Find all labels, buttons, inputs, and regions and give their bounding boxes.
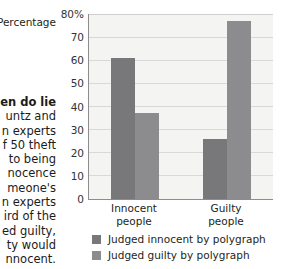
- legend-swatch-icon: [92, 251, 101, 260]
- y-axis-tick-label: 80%: [40, 9, 84, 20]
- legend-item[interactable]: Judged innocent by polygraph: [92, 232, 282, 246]
- article-line: ed guilty,: [0, 224, 56, 238]
- bar[interactable]: [227, 21, 251, 199]
- y-axis-tick-label: 40: [40, 101, 84, 112]
- x-axis-tick-label: Guiltypeople: [181, 202, 271, 227]
- gridline: [89, 14, 273, 15]
- y-axis-tick-label: 70: [40, 32, 84, 43]
- y-axis-tick-labels: 01020304050607080%: [40, 0, 84, 200]
- x-axis-tick-label-line: people: [89, 215, 179, 228]
- y-axis-tick-label: 20: [40, 147, 84, 158]
- y-axis-tick-label: 0: [40, 194, 84, 205]
- x-axis-tick-labels: InnocentpeopleGuiltypeople: [88, 202, 273, 230]
- chart-page: en do lie untz and n experts f 50 theft …: [0, 0, 283, 269]
- bar[interactable]: [111, 58, 135, 199]
- article-line: ird of the: [0, 209, 56, 223]
- legend-label: Judged guilty by polygraph: [108, 249, 250, 261]
- chart-legend: Judged innocent by polygraph Judged guil…: [92, 232, 282, 264]
- y-axis-tick-label: 50: [40, 78, 84, 89]
- article-line: nnocent.: [0, 252, 56, 266]
- legend-item[interactable]: Judged guilty by polygraph: [92, 248, 282, 262]
- x-axis-tick-label-line: Innocent: [89, 202, 179, 215]
- legend-swatch-icon: [92, 235, 101, 244]
- chart-plot-frame: [88, 14, 273, 200]
- article-line: ty would: [0, 238, 56, 252]
- chart-plot-area: [89, 14, 273, 199]
- bar[interactable]: [135, 113, 159, 199]
- x-axis-tick-label-line: people: [181, 215, 271, 228]
- y-axis-tick-label: 10: [40, 170, 84, 181]
- x-axis-tick-label-line: Guilty: [181, 202, 271, 215]
- y-axis-tick-label: 30: [40, 124, 84, 135]
- x-axis-tick-label: Innocentpeople: [89, 202, 179, 227]
- legend-label: Judged innocent by polygraph: [108, 233, 266, 245]
- bar[interactable]: [203, 139, 227, 199]
- y-axis-tick-label: 60: [40, 55, 84, 66]
